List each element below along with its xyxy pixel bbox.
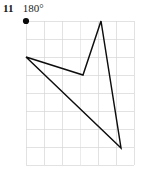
geometry-figure-svg [0,0,142,177]
exercise-figure-panel: 11 180° [0,0,142,177]
center-of-rotation-dot [23,18,29,24]
figure-area [0,0,142,177]
